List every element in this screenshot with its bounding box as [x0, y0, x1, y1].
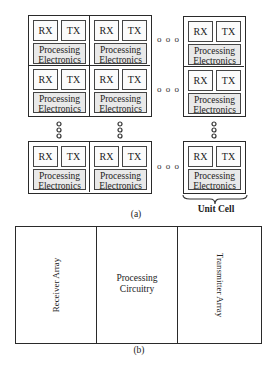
processing-electronics-box: Processing Electronics: [188, 44, 241, 65]
pe-line1: Processing: [95, 45, 146, 55]
processing-electronics-box: Processing Electronics: [33, 43, 86, 64]
rx-box: RX: [188, 146, 213, 167]
processing-electronics-box: Processing Electronics: [188, 169, 241, 190]
pe-line1: Processing: [189, 95, 240, 105]
pe-line1: Processing: [34, 171, 85, 181]
vertical-dots-icon: [55, 121, 63, 139]
rx-box: RX: [94, 20, 119, 41]
pe-line1: Processing: [189, 171, 240, 181]
tx-box: TX: [61, 146, 86, 167]
tx-box: TX: [61, 69, 86, 90]
processing-electronics-box: Processing Electronics: [188, 93, 241, 114]
cell-block-bottom-left: RX TX Processing Electronics RX TX Proce…: [28, 141, 152, 194]
figure-b-caption: (b): [127, 345, 151, 355]
rx-box: RX: [94, 146, 119, 167]
rx-box: RX: [188, 21, 213, 42]
tx-box: TX: [122, 20, 147, 41]
cell-block-col2-top: RX TX Processing Electronics RX TX Proce…: [89, 15, 152, 117]
figure-a-caption: (a): [124, 209, 148, 219]
processing-electronics-box: Processing Electronics: [94, 169, 147, 190]
processing-electronics-box: Processing Electronics: [33, 169, 86, 190]
tx-box: TX: [122, 69, 147, 90]
cell-block-col1-top: RX TX Processing Electronics RX TX Proce…: [28, 15, 91, 117]
receiver-array-label: Receiver Array: [51, 258, 61, 313]
horizontal-ellipsis: o o o: [157, 34, 180, 44]
vertical-ellipsis: [116, 121, 124, 140]
pe-line2: Electronics: [95, 181, 146, 191]
processing-circuitry-line1: Processing: [97, 273, 177, 284]
tx-box: TX: [61, 20, 86, 41]
vertical-ellipsis: [210, 121, 218, 140]
unit-cell-label: Unit Cell: [183, 204, 249, 214]
pe-line2: Electronics: [34, 181, 85, 191]
unit-cell: RX TX Processing Electronics: [90, 16, 150, 66]
processing-electronics-box: Processing Electronics: [94, 43, 147, 64]
pe-line1: Processing: [95, 94, 146, 104]
pe-line2: Electronics: [34, 55, 85, 65]
unit-cell: RX TX Processing Electronics: [90, 142, 150, 192]
vertical-ellipsis: [55, 121, 63, 140]
pe-line2: Electronics: [95, 104, 146, 114]
unit-cell: RX TX Processing Electronics: [90, 66, 150, 116]
unit-cell: RX TX Processing Electronics: [29, 142, 89, 192]
horizontal-ellipsis: o o o: [157, 161, 180, 171]
unit-cell-highlighted: RX TX Processing Electronics: [183, 141, 246, 194]
rx-box: RX: [33, 146, 58, 167]
cell-block-col3-top: RX TX Processing Electronics RX TX Proce…: [183, 16, 246, 117]
pe-line1: Processing: [34, 45, 85, 55]
transmitter-array-label: Transmitter Array: [215, 253, 225, 317]
pe-line2: Electronics: [189, 56, 240, 66]
unit-cell: RX TX Processing Electronics: [184, 67, 244, 117]
vertical-dots-icon: [210, 121, 218, 139]
pe-line2: Electronics: [189, 181, 240, 191]
tx-box: TX: [122, 146, 147, 167]
pe-line1: Processing: [34, 94, 85, 104]
horizontal-ellipsis: o o o: [157, 84, 180, 94]
processing-circuitry-line2: Circuitry: [97, 284, 177, 295]
processing-electronics-box: Processing Electronics: [94, 92, 147, 113]
unit-cell: RX TX Processing Electronics: [29, 16, 89, 66]
processing-circuitry-section: Processing Circuitry: [97, 227, 178, 343]
tx-box: TX: [216, 70, 241, 91]
pe-line1: Processing: [95, 171, 146, 181]
pe-line1: Processing: [189, 46, 240, 56]
rx-box: RX: [33, 20, 58, 41]
unit-cell: RX TX Processing Electronics: [184, 142, 244, 192]
rx-box: RX: [33, 69, 58, 90]
rx-box: RX: [188, 70, 213, 91]
processing-electronics-box: Processing Electronics: [33, 92, 86, 113]
vertical-dots-icon: [116, 121, 124, 139]
pe-line2: Electronics: [95, 55, 146, 65]
tx-box: TX: [216, 146, 241, 167]
layer-stack-box: Receiver Array Processing Circuitry Tran…: [15, 226, 262, 344]
pe-line2: Electronics: [34, 104, 85, 114]
transmitter-array-section: Transmitter Array: [178, 227, 261, 343]
rx-box: RX: [94, 69, 119, 90]
unit-cell: RX TX Processing Electronics: [29, 66, 89, 116]
receiver-array-section: Receiver Array: [16, 227, 97, 343]
pe-line2: Electronics: [189, 105, 240, 115]
tx-box: TX: [216, 21, 241, 42]
unit-cell: RX TX Processing Electronics: [184, 17, 244, 67]
processing-circuitry-label: Processing Circuitry: [97, 273, 177, 295]
